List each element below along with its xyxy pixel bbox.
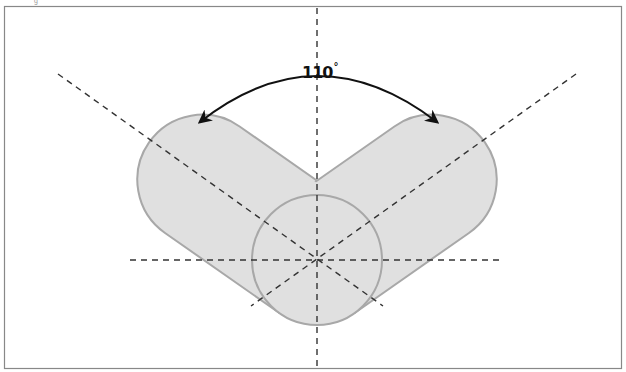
stray-mark: g	[34, 0, 38, 4]
diagram-canvas: g	[0, 0, 626, 372]
diagram-svg	[0, 0, 626, 372]
angle-value: 110	[302, 63, 332, 82]
angle-arc-arrow	[200, 76, 437, 122]
angle-label: 110°	[302, 60, 338, 82]
degree-symbol: °	[333, 61, 338, 72]
